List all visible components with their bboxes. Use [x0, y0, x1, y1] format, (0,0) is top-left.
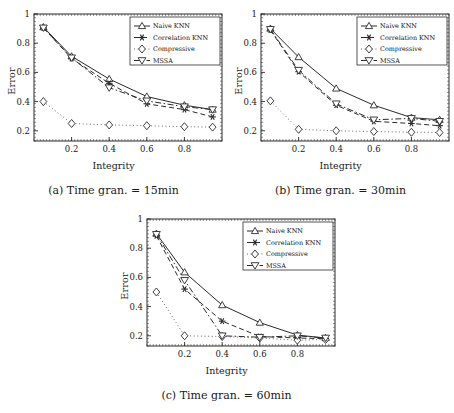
plot-area-b: Error 0.20.40.60.80.20.40.60.81Naive KNN… [227, 0, 454, 162]
svg-text:1: 1 [252, 9, 257, 19]
x-axis-label-c: Integrity [113, 365, 340, 376]
svg-text:0.6: 0.6 [129, 272, 143, 282]
svg-text:0.6: 0.6 [253, 349, 267, 359]
svg-text:0.8: 0.8 [405, 144, 419, 154]
svg-text:0.8: 0.8 [291, 349, 305, 359]
svg-text:Naive KNN: Naive KNN [153, 22, 190, 30]
svg-text:0.2: 0.2 [16, 126, 30, 136]
svg-text:0.4: 0.4 [215, 349, 229, 359]
x-axis-label-b: Integrity [227, 160, 454, 171]
svg-text:0.4: 0.4 [129, 302, 143, 312]
svg-text:MSSA: MSSA [153, 57, 173, 65]
svg-text:Correlation KNN: Correlation KNN [153, 34, 208, 42]
svg-text:0.8: 0.8 [243, 38, 257, 48]
svg-text:Compressive: Compressive [380, 45, 422, 53]
svg-text:0.2: 0.2 [292, 144, 306, 154]
svg-text:0.6: 0.6 [140, 144, 154, 154]
svg-text:0.2: 0.2 [65, 144, 79, 154]
svg-text:1: 1 [138, 214, 143, 224]
svg-text:0.6: 0.6 [367, 144, 381, 154]
svg-text:Compressive: Compressive [266, 250, 308, 258]
panel-caption-c: (c) Time gran. = 60min [113, 389, 340, 402]
svg-text:0.4: 0.4 [243, 97, 257, 107]
panel-caption-a: (a) Time gran. = 15min [0, 184, 227, 197]
svg-text:0.2: 0.2 [178, 349, 192, 359]
panel-caption-b: (b) Time gran. = 30min [227, 184, 454, 197]
figure-panel-b: Error 0.20.40.60.80.20.40.60.81Naive KNN… [227, 0, 454, 205]
svg-text:Correlation KNN: Correlation KNN [266, 239, 321, 247]
svg-text:1: 1 [25, 9, 30, 19]
svg-text:Naive KNN: Naive KNN [380, 22, 417, 30]
chart-svg-a: 0.20.40.60.80.20.40.60.81Naive KNNCorrel… [0, 0, 227, 162]
plot-area-c: Error 0.20.40.60.80.20.40.60.81Naive KNN… [113, 205, 340, 367]
plot-area-a: Error 0.20.40.60.80.20.40.60.81Naive KNN… [0, 0, 227, 162]
svg-text:Correlation KNN: Correlation KNN [380, 34, 435, 42]
svg-text:Compressive: Compressive [153, 45, 195, 53]
svg-text:0.6: 0.6 [16, 67, 30, 77]
y-axis-label-a: Error [6, 67, 17, 94]
x-axis-label-a: Integrity [0, 160, 227, 171]
svg-text:0.8: 0.8 [129, 243, 143, 253]
svg-text:0.6: 0.6 [243, 67, 257, 77]
svg-text:MSSA: MSSA [266, 262, 286, 270]
svg-text:0.8: 0.8 [178, 144, 192, 154]
svg-text:0.4: 0.4 [329, 144, 343, 154]
figure-panel-a: Error 0.20.40.60.80.20.40.60.81Naive KNN… [0, 0, 227, 205]
figure-panel-c: Error 0.20.40.60.80.20.40.60.81Naive KNN… [113, 205, 340, 413]
y-axis-label-b: Error [233, 67, 244, 94]
svg-text:0.4: 0.4 [102, 144, 116, 154]
chart-svg-c: 0.20.40.60.80.20.40.60.81Naive KNNCorrel… [113, 205, 340, 367]
y-axis-label-c: Error [119, 272, 130, 299]
svg-text:0.2: 0.2 [243, 126, 257, 136]
svg-text:MSSA: MSSA [380, 57, 400, 65]
svg-text:0.8: 0.8 [16, 38, 30, 48]
svg-text:Naive KNN: Naive KNN [266, 227, 303, 235]
chart-svg-b: 0.20.40.60.80.20.40.60.81Naive KNNCorrel… [227, 0, 454, 162]
svg-text:0.2: 0.2 [129, 331, 143, 341]
svg-text:0.4: 0.4 [16, 97, 30, 107]
